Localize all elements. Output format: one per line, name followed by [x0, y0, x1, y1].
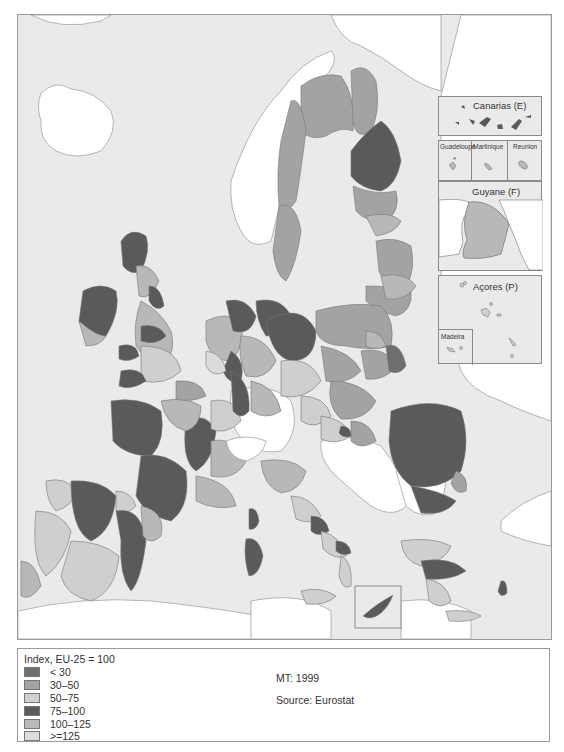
inset-martinique: Martinique: [471, 141, 508, 182]
legend-label: 100–125: [50, 718, 91, 730]
legend-item: >=125: [24, 730, 80, 742]
map-frame: Canarias (E) Guadeloupe Martinique Reuni…: [17, 14, 552, 640]
corsica: [249, 509, 259, 530]
reunion-island: [507, 141, 543, 182]
madeira-islands: [439, 330, 473, 366]
legend-swatch: [24, 719, 40, 729]
inset-guyane: Guyane (F): [438, 181, 542, 271]
british-isles-regions: [79, 232, 181, 388]
legend-label: 75–100: [50, 705, 85, 717]
legend-item: 30–50: [24, 679, 79, 691]
legend-box: Index, EU-25 = 100 < 30 30–50 50–75 75–1…: [17, 648, 550, 742]
inset-acores: Açores (P) Madeira: [438, 275, 542, 364]
guyane-territory: [439, 182, 543, 272]
legend-source: Source: Eurostat: [276, 694, 354, 706]
legend-title: Index, EU-25 = 100: [24, 653, 115, 665]
legend-item: 50–75: [24, 692, 79, 704]
legend-item: < 30: [24, 666, 71, 678]
legend-swatch: [24, 731, 40, 741]
italy-regions: [261, 460, 351, 605]
legend-label: < 30: [50, 666, 71, 678]
inset-dom: Guadeloupe Martinique Reunion: [438, 140, 542, 181]
legend-swatch: [24, 706, 40, 716]
legend-swatch: [24, 680, 40, 690]
legend-label: 30–50: [50, 679, 79, 691]
legend-swatch: [24, 693, 40, 703]
legend-label: >=125: [50, 730, 80, 742]
sardinia: [245, 539, 263, 576]
legend-item: 100–125: [24, 718, 91, 730]
guadeloupe-islands: [439, 141, 471, 182]
inset-madeira: Madeira: [439, 329, 473, 365]
inset-guadeloupe: Guadeloupe: [439, 141, 472, 182]
martinique-island: [471, 141, 507, 182]
legend-swatch: [24, 667, 40, 677]
legend-note: MT: 1999: [276, 672, 319, 684]
canarias-islands: [439, 97, 543, 137]
inset-reunion: Reunion: [507, 141, 543, 182]
legend-label: 50–75: [50, 692, 79, 704]
legend-item: 75–100: [24, 705, 85, 717]
inset-canarias: Canarias (E): [438, 96, 542, 136]
